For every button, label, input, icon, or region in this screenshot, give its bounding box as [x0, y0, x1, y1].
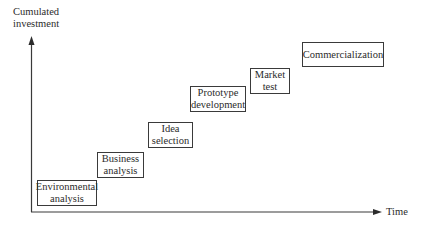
y-axis-label: Cumulated investment: [13, 6, 59, 30]
x-axis-label: Time: [386, 206, 408, 218]
stage-business-analysis: Business analysis: [97, 152, 144, 178]
stage-environmental-analysis: Environmental analysis: [37, 180, 97, 206]
y-axis-arrowhead: [29, 36, 35, 45]
stage-prototype-development: Prototype development: [190, 86, 246, 112]
stage-market-test: Market test: [250, 68, 290, 94]
x-axis-arrowhead: [373, 209, 382, 215]
stage-commercialization: Commercialization: [302, 42, 384, 67]
stage-idea-selection: Idea selection: [148, 122, 193, 148]
